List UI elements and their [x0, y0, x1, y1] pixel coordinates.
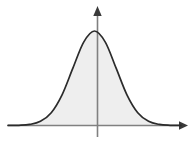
- bell-curve-canvas: [0, 0, 195, 147]
- bell-curve-figure: [0, 0, 195, 147]
